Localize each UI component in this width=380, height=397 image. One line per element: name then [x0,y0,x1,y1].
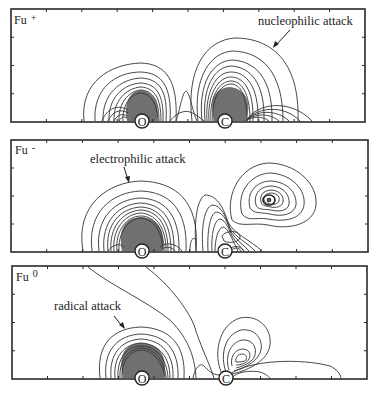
svg-text:O: O [138,372,147,386]
svg-text:C: C [221,245,229,259]
atom-oxygen: O [135,114,149,129]
panel-label: Fu0 [16,268,38,284]
contours-carbon [193,317,341,378]
svg-text:O: O [138,245,147,259]
svg-text:O: O [138,115,147,129]
svg-text:C: C [222,372,230,386]
annotation-text: nucleophilic attack [258,14,354,28]
panel-fu-zero: radical attack Fu0 O C [12,266,367,386]
contours-carbon [191,38,312,121]
annotation-text: radical attack [54,299,122,313]
atom-carbon: C [218,244,232,259]
panel-frame [12,266,367,379]
atom-oxygen: O [135,371,149,386]
axis-ticks [11,140,368,252]
annotation-arrow [276,30,290,45]
axis-ticks [12,266,367,379]
panel-label: Fu- [15,142,35,157]
fukui-function-contour-figure: nucleophilic attack Fu+ O C [0,0,380,397]
atom-carbon: C [218,114,232,129]
atom-oxygen: O [135,244,149,259]
panel-label: Fu+ [14,12,37,27]
svg-text:C: C [221,115,229,129]
atom-carbon: C [219,371,233,386]
panel-fu-minus: electrophilic attack Fu- O C [11,140,368,259]
panel-frame [11,140,368,252]
contours-carbon [190,163,316,251]
panel-fu-plus: nucleophilic attack Fu+ O C [11,9,365,129]
annotation-text: electrophilic attack [90,152,186,166]
